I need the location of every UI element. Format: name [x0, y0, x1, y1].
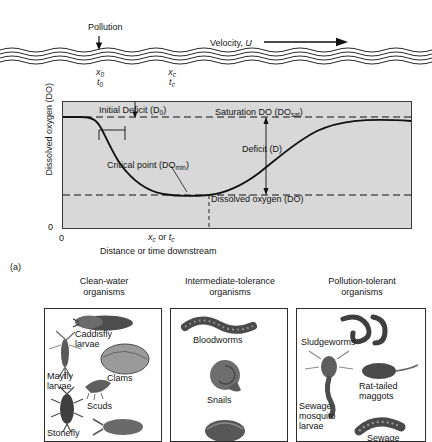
organism-box-pollution-tolerant: Sludgeworms Rat-tailed maggots Sewage mo… — [296, 308, 426, 442]
station-x0-label: x0 — [88, 68, 112, 78]
species-label-rat-tailed-maggots: Rat-tailed maggots — [359, 381, 398, 401]
x-axis-tick-zero: 0 — [59, 233, 64, 243]
critical-point-annotation: Critical point (DOmin) — [107, 160, 189, 170]
stonefly-adult-icon — [93, 419, 143, 435]
station-xc-label: xc — [160, 68, 184, 78]
species-label-stonefly: Stonefly — [47, 428, 80, 438]
organism-column-heading: Clean-water organisms — [44, 276, 164, 299]
species-label-bloodworms: Bloodworms — [193, 335, 243, 345]
sewage-organism-icon — [359, 422, 401, 431]
bloodworms-icon — [185, 320, 253, 329]
stream-schematic — [0, 36, 432, 66]
water-waves — [0, 48, 432, 64]
rat-tailed-maggots-icon — [362, 363, 418, 379]
intermediate-organisms-art — [171, 309, 287, 441]
initial-deficit-annotation: Initial Deficit (D0) — [99, 105, 166, 115]
species-label-sewage-mosquito-larvae: Sewage mosquito larvae — [299, 401, 336, 431]
species-label-clams: Clams — [107, 373, 133, 383]
station-marker-critical: xc tc — [160, 68, 184, 88]
pollution-label: Pollution — [88, 22, 123, 32]
organism-column-intermediate: Intermediate-tolerance organisms — [170, 276, 290, 299]
snails-icon — [210, 360, 241, 392]
x-axis-label: Distance or time downstream — [100, 246, 217, 256]
organism-column-heading: Pollution-tolerant organisms — [296, 276, 428, 299]
saturation-do-annotation: Saturation DO (DOsat) — [215, 107, 303, 117]
organism-column-heading: Intermediate-tolerance organisms — [170, 276, 290, 299]
species-label-caddisfly-larvae: Caddisfly larvae — [75, 329, 112, 349]
organism-box-clean-water: Caddisfly larvae Mayfly larvae Clams Scu… — [44, 308, 162, 442]
station-marker-outfall: x0 t0 — [88, 68, 112, 88]
station-t0-label: t0 — [88, 78, 112, 88]
species-label-sludgeworms: Sludgeworms — [301, 337, 356, 347]
y-axis-tick-zero: 0 — [48, 222, 53, 232]
station-tc-label: tc — [160, 78, 184, 88]
organism-panels: Clean-water organisms — [44, 276, 432, 442]
do-sag-curve-figure: Pollution Velocity, U x0 t0 xc tc — [0, 0, 432, 442]
do-sag-chart: Initial Deficit (D0) Saturation DO (DOsa… — [62, 101, 412, 229]
species-label-mayfly-larvae: Mayfly larvae — [47, 371, 73, 391]
stonefly-icon — [51, 387, 83, 432]
do-curve — [63, 117, 411, 196]
x-axis-tick-critical: xc or tc — [148, 232, 175, 242]
species-label-snails: Snails — [207, 395, 232, 405]
panel-letter: (a) — [10, 262, 21, 272]
organism-column-clean-water: Clean-water organisms — [44, 276, 164, 299]
unlabeled-organism-icon — [205, 420, 245, 441]
organism-box-intermediate: Bloodworms Snails — [170, 308, 288, 442]
organism-column-pollution-tolerant: Pollution-tolerant organisms — [296, 276, 428, 299]
dissolved-oxygen-annotation: Dissolved oxygen (DO) — [211, 194, 304, 204]
species-label-sewage: Sewage — [367, 433, 400, 442]
deficit-annotation: Deficit (D) — [242, 144, 282, 154]
deficit-double-arrow — [264, 117, 269, 195]
velocity-arrow — [264, 38, 348, 46]
y-axis-label: Dissolved oxygen (DO) — [44, 74, 54, 184]
species-label-scuds: Scuds — [87, 401, 112, 411]
